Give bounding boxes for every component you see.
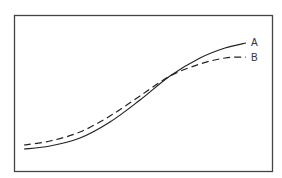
curve-a (24, 43, 246, 149)
chart-canvas: A B (0, 0, 282, 178)
label-a: A (251, 37, 258, 48)
label-b: B (251, 52, 258, 63)
curve-b (24, 57, 246, 145)
